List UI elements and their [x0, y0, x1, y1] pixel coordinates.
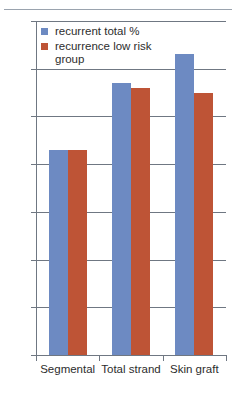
chart-legend: recurrent total %recurrence low risk gro…: [41, 25, 171, 68]
bar: [68, 150, 87, 355]
x-axis-category-label: Total strand: [101, 364, 160, 376]
y-axis-tick-mark: [31, 21, 36, 22]
bar: [49, 150, 68, 355]
gridline: [36, 21, 226, 22]
bar: [131, 88, 150, 355]
x-axis-tick-mark: [226, 355, 227, 361]
bar-chart-figure: 010203040506070 SegmentalTotal strandSki…: [0, 0, 236, 399]
y-axis-tick-mark: [31, 116, 36, 117]
legend-item: recurrent total %: [41, 25, 171, 38]
x-axis-category-label: Skin graft: [170, 364, 219, 376]
x-axis-tick-mark: [36, 355, 37, 361]
y-axis-tick-mark: [31, 212, 36, 213]
gridline: [36, 69, 226, 70]
legend-label: recurrence low risk group: [55, 40, 171, 66]
plot-area: [36, 21, 226, 355]
legend-label: recurrent total %: [55, 25, 139, 38]
y-axis-tick-mark: [31, 69, 36, 70]
legend-color-swatch: [41, 43, 48, 50]
bar: [112, 83, 131, 355]
x-axis-tick-mark: [163, 355, 164, 361]
x-axis-tick-mark: [99, 355, 100, 361]
gridline: [36, 355, 226, 356]
y-axis-tick-mark: [31, 307, 36, 308]
legend-color-swatch: [41, 28, 48, 35]
x-axis-category-label: Segmental: [40, 364, 95, 376]
bar: [194, 93, 213, 355]
bar: [175, 54, 194, 355]
y-axis-tick-mark: [31, 164, 36, 165]
legend-item: recurrence low risk group: [41, 40, 171, 66]
y-axis-tick-mark: [31, 260, 36, 261]
top-divider-rule: [4, 9, 232, 10]
